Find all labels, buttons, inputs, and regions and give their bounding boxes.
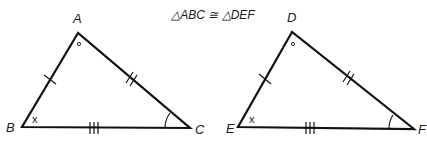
vertex-label-b: B <box>6 120 15 135</box>
angle-e-mark: x <box>249 113 255 125</box>
tick-de <box>259 74 271 84</box>
vertex-label-d: D <box>287 10 296 25</box>
angle-b-mark: x <box>32 113 38 125</box>
triangle-def-outline <box>238 32 414 129</box>
congruent-triangles-diagram: △ABC ≅ △DEF x A B C <box>0 0 427 144</box>
tick-ab <box>44 75 56 84</box>
congruence-statement: △ABC ≅ △DEF <box>170 8 255 22</box>
vertex-label-a: A <box>72 11 82 26</box>
angle-a-mark <box>77 42 80 45</box>
angle-c-arc <box>165 113 170 128</box>
triangle-abc-outline <box>22 33 190 128</box>
angle-f-arc <box>389 115 393 129</box>
triangle-def: x D E F <box>226 10 427 137</box>
angle-d-mark <box>291 42 294 45</box>
triangle-abc: x A B C <box>6 11 205 137</box>
vertex-label-e: E <box>226 121 235 136</box>
vertex-label-f: F <box>418 122 427 137</box>
vertex-label-c: C <box>195 122 205 137</box>
